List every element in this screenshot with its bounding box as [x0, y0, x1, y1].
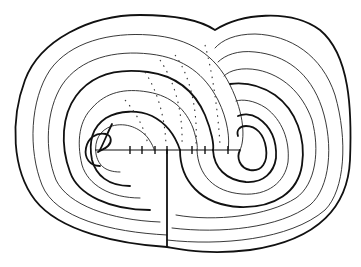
left-lobe-contours [33, 34, 243, 235]
spiral-diagram [0, 0, 361, 267]
diagram-canvas [0, 0, 361, 267]
right-lobe-contours [167, 34, 343, 242]
